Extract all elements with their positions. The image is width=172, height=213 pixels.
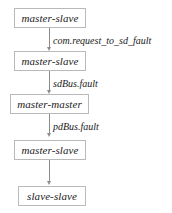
flow-node-label: slave-slave	[27, 190, 77, 201]
flow-node-2[interactable]: master-slave	[14, 51, 86, 71]
flow-node-4[interactable]: master-slave	[14, 140, 86, 160]
flow-node-1[interactable]: master-slave	[14, 8, 86, 28]
flow-edge-3-label: pdBus.fault	[53, 122, 99, 132]
flow-node-3[interactable]: master-master	[10, 94, 89, 114]
flow-edge-2-label: sdBus.fault	[53, 79, 98, 89]
flow-edge-1-line	[49, 28, 50, 48]
flow-node-label: master-slave	[21, 144, 78, 155]
flow-edge-3-arrowhead	[47, 133, 51, 137]
flow-node-label: master-slave	[21, 12, 78, 23]
flow-edge-3-line	[49, 114, 50, 134]
flow-node-label: master-master	[17, 98, 82, 109]
flow-edge-4-line	[49, 160, 50, 182]
flow-edge-1-label: com.request_to_sd_fault	[53, 36, 151, 46]
flow-node-5[interactable]: slave-slave	[18, 186, 86, 206]
flow-node-label: master-slave	[21, 55, 78, 66]
flow-edge-2-line	[49, 71, 50, 91]
flowchart-diagram: master-slave com.request_to_sd_fault mas…	[0, 0, 172, 213]
flow-edge-4-arrowhead	[47, 181, 51, 185]
